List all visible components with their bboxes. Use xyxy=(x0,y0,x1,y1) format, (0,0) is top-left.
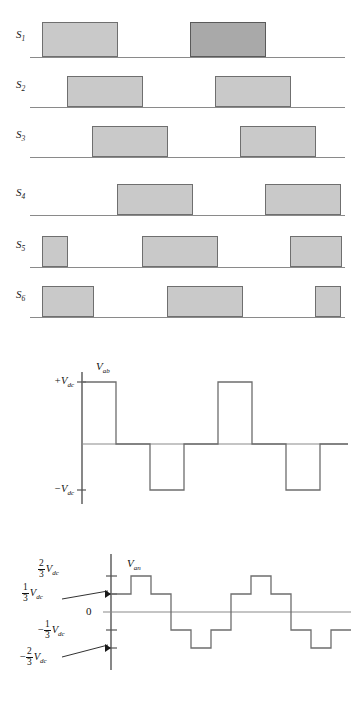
baseline-s5 xyxy=(30,267,345,268)
pulse-s2-1 xyxy=(67,76,143,107)
pulse-s4-2 xyxy=(265,184,341,215)
pulse-s6-2 xyxy=(167,286,243,317)
pulse-s2-2 xyxy=(215,76,291,107)
pulse-s5-1 xyxy=(42,236,68,267)
vab-plot xyxy=(60,368,350,508)
pulse-s1-1 xyxy=(42,22,118,57)
gate-label-s5: S5 xyxy=(16,238,25,253)
van-plot xyxy=(95,552,353,677)
van-tick-plus-one-third: 13Vdc xyxy=(22,584,43,604)
pulse-s5-3 xyxy=(290,236,342,267)
gate-label-s1: S1 xyxy=(16,28,25,43)
pulse-s3-2 xyxy=(240,126,316,157)
baseline-s2 xyxy=(30,107,345,108)
van-tick-leader-lines xyxy=(60,585,120,665)
pulse-s5-2 xyxy=(142,236,218,267)
pulse-s1-2 xyxy=(190,22,266,57)
van-tick-plus-two-thirds: 23Vdc xyxy=(38,560,59,580)
gate-label-s6: S6 xyxy=(16,288,25,303)
pulse-s3-1 xyxy=(92,126,168,157)
gate-label-s2: S2 xyxy=(16,78,25,93)
baseline-s6 xyxy=(30,317,345,318)
pulse-s6-3 xyxy=(315,286,341,317)
pulse-s4-1 xyxy=(117,184,193,215)
gate-label-s4: S4 xyxy=(16,186,25,201)
baseline-s4 xyxy=(30,215,345,216)
pulse-s6-1 xyxy=(42,286,94,317)
baseline-s1 xyxy=(30,57,345,58)
baseline-s3 xyxy=(30,157,345,158)
gate-label-s3: S3 xyxy=(16,128,25,143)
van-tick-minus-two-thirds: −23Vdc xyxy=(20,648,47,668)
six-step-inverter-figure: S1 S2 S3 S4 S5 S6 +Vdc −Vdc Vab xyxy=(0,0,354,703)
